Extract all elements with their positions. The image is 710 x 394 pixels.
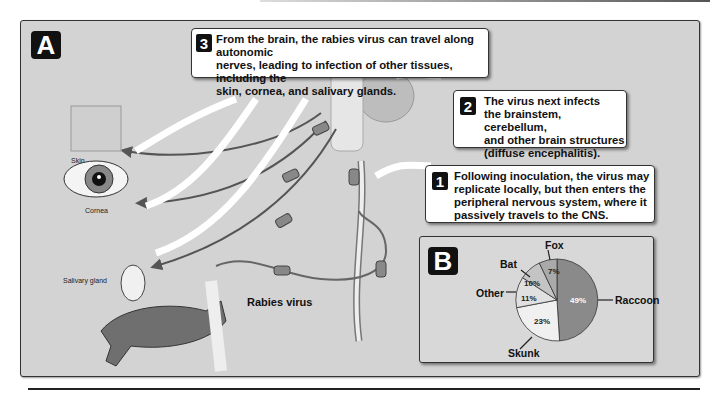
pie-pct-fox: 7% <box>548 267 560 276</box>
callout-step-3: 3 From the brain, the rabies virus can t… <box>191 28 489 78</box>
step-1-line-4: passively travels to the CNS. <box>454 209 649 222</box>
rabid-dog-illustration <box>101 301 226 366</box>
pie-label-fox: Fox <box>545 239 564 251</box>
pie-pct-bat: 10% <box>524 279 540 288</box>
step-3-line-1: From the brain, the rabies virus can tra… <box>216 33 488 59</box>
salivary-gland-illustration <box>121 265 145 301</box>
step-1-line-1: Following inoculation, the virus may <box>454 170 649 183</box>
panel-a: A Skin Cornea Salivary gland Rabies viru… <box>20 20 700 377</box>
top-rule <box>260 0 710 2</box>
callout-step-1: 1 Following inoculation, the virus may r… <box>425 165 655 223</box>
cornea-label: Cornea <box>85 207 108 214</box>
panel-b-pie-chart: B Fox Bat Other Raccoon Skunk 7% 10% 11%… <box>419 236 654 363</box>
pie-label-raccoon: Raccoon <box>615 294 659 306</box>
skin-illustration <box>71 106 121 151</box>
step-2-line-4: (diffuse encephalitis). <box>484 147 626 160</box>
bottom-rule <box>28 388 700 390</box>
pie-pct-other: 11% <box>521 294 537 303</box>
rabies-virus-label: Rabies virus <box>247 296 312 308</box>
pie-label-bat: Bat <box>500 258 517 270</box>
pie-label-skunk: Skunk <box>508 347 540 359</box>
step-2-line-2: the brainstem, cerebellum, <box>484 108 626 134</box>
step-2-badge: 2 <box>460 97 476 115</box>
step-2-line-1: The virus next infects <box>484 95 626 108</box>
step-1-line-3: peripheral nervous system, where it <box>454 196 649 209</box>
step-3-badge: 3 <box>196 34 212 52</box>
pie-pct-skunk: 23% <box>534 317 550 326</box>
step-3-line-3: skin, cornea, and salivary glands. <box>216 85 488 98</box>
salivary-gland-label: Salivary gland <box>63 277 107 284</box>
callout-step-2: 2 The virus next infects the brainstem, … <box>453 90 627 148</box>
step-2-line-3: and other brain structures <box>484 134 626 147</box>
skin-label: Skin <box>71 157 85 164</box>
step-1-line-2: replicate locally, but then enters the <box>454 183 649 196</box>
pie-pct-raccoon: 49% <box>570 296 586 305</box>
pie-label-other: Other <box>476 287 504 299</box>
panel-a-badge: A <box>31 31 61 59</box>
step-3-line-2: nerves, leading to infection of other ti… <box>216 59 488 85</box>
step-1-badge: 1 <box>432 172 448 190</box>
